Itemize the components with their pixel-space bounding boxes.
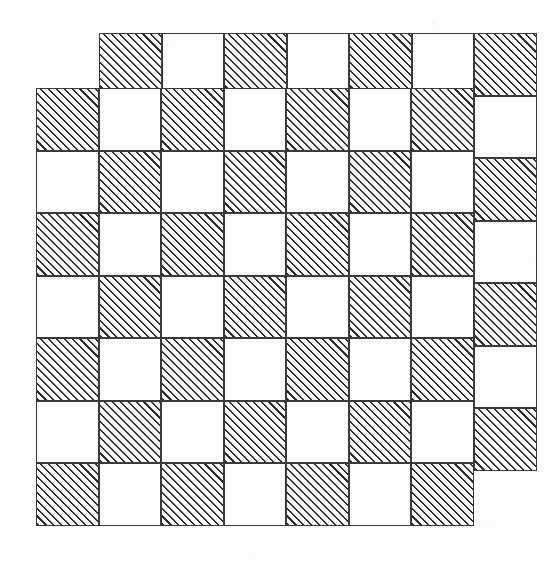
blank-cell	[286, 151, 349, 214]
blank-cell	[286, 276, 349, 339]
blank-cell	[36, 276, 99, 339]
hatched-cell	[474, 33, 537, 96]
hatched-cell	[36, 88, 99, 151]
blank-cell	[224, 463, 287, 526]
hatched-cell	[411, 88, 474, 151]
blank-cell	[161, 276, 224, 339]
blank-cell	[287, 33, 350, 96]
blank-cell	[474, 96, 537, 159]
hatched-cell	[349, 276, 412, 339]
blank-cell	[411, 151, 474, 214]
blank-cell	[161, 151, 224, 214]
lower-left-grid	[36, 88, 474, 526]
blank-cell	[36, 401, 99, 464]
blank-cell	[161, 401, 224, 464]
hatched-cell	[474, 408, 537, 471]
blank-cell	[412, 33, 475, 96]
blank-cell	[162, 33, 225, 96]
blank-cell	[474, 221, 537, 284]
hatched-cell	[161, 213, 224, 276]
hatched-cell	[224, 151, 287, 214]
hatched-cell	[411, 463, 474, 526]
blank-cell	[99, 213, 162, 276]
hatched-cell	[349, 33, 412, 96]
hatched-cell	[36, 463, 99, 526]
hatched-cell	[224, 401, 287, 464]
figure-canvas	[0, 0, 556, 571]
blank-cell	[411, 401, 474, 464]
blank-cell	[349, 88, 412, 151]
blank-cell	[36, 151, 99, 214]
hatched-cell	[161, 88, 224, 151]
hatched-cell	[286, 338, 349, 401]
hatched-cell	[224, 33, 287, 96]
hatched-cell	[474, 158, 537, 221]
blank-cell	[224, 213, 287, 276]
blank-cell	[349, 213, 412, 276]
blank-cell	[349, 463, 412, 526]
hatched-cell	[286, 463, 349, 526]
hatched-cell	[411, 338, 474, 401]
hatched-cell	[99, 33, 162, 96]
hatched-cell	[99, 401, 162, 464]
hatched-cell	[349, 401, 412, 464]
hatched-cell	[161, 463, 224, 526]
blank-cell	[99, 463, 162, 526]
blank-cell	[349, 338, 412, 401]
hatched-cell	[224, 276, 287, 339]
blank-cell	[224, 88, 287, 151]
blank-cell	[411, 276, 474, 339]
hatched-cell	[36, 213, 99, 276]
hatched-cell	[99, 276, 162, 339]
hatched-cell	[161, 338, 224, 401]
hatched-cell	[286, 88, 349, 151]
blank-cell	[99, 88, 162, 151]
hatched-cell	[36, 338, 99, 401]
blank-cell	[99, 338, 162, 401]
blank-cell	[474, 346, 537, 409]
hatched-cell	[99, 151, 162, 214]
hatched-cell	[349, 151, 412, 214]
hatched-cell	[474, 283, 537, 346]
hatched-cell	[286, 213, 349, 276]
hatched-cell	[411, 213, 474, 276]
blank-cell	[224, 338, 287, 401]
blank-cell	[286, 401, 349, 464]
